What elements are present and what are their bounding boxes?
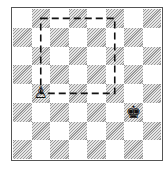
square-e2 (87, 122, 106, 141)
square-e8 (87, 9, 106, 28)
square-d1 (69, 140, 88, 159)
square-c5 (50, 65, 69, 84)
square-h6 (143, 47, 162, 66)
black-king-icon: ♚ (124, 103, 143, 122)
square-a5 (13, 65, 32, 84)
square-g4 (124, 84, 143, 103)
square-b3 (32, 103, 51, 122)
square-e3 (87, 103, 106, 122)
square-h3 (143, 103, 162, 122)
square-c6 (50, 47, 69, 66)
square-a8 (13, 9, 32, 28)
square-d4 (69, 84, 88, 103)
square-f8 (106, 9, 125, 28)
square-h4 (143, 84, 162, 103)
square-d6 (69, 47, 88, 66)
square-b6 (32, 47, 51, 66)
square-d5 (69, 65, 88, 84)
square-c2 (50, 122, 69, 141)
square-f4 (106, 84, 125, 103)
square-g6 (124, 47, 143, 66)
white-pawn-icon: ♙ (32, 84, 51, 103)
square-b5 (32, 65, 51, 84)
square-h1 (143, 140, 162, 159)
square-c8 (50, 9, 69, 28)
square-g2 (124, 122, 143, 141)
square-d2 (69, 122, 88, 141)
square-f5 (106, 65, 125, 84)
square-h5 (143, 65, 162, 84)
square-e7 (87, 28, 106, 47)
square-c3 (50, 103, 69, 122)
square-h8 (143, 9, 162, 28)
square-b2 (32, 122, 51, 141)
square-g7 (124, 28, 143, 47)
square-f3 (106, 103, 125, 122)
square-f1 (106, 140, 125, 159)
square-a7 (13, 28, 32, 47)
square-g5 (124, 65, 143, 84)
square-h7 (143, 28, 162, 47)
square-g1 (124, 140, 143, 159)
square-a1 (13, 140, 32, 159)
square-d7 (69, 28, 88, 47)
square-f6 (106, 47, 125, 66)
square-d3 (69, 103, 88, 122)
square-b8 (32, 9, 51, 28)
square-c4 (50, 84, 69, 103)
square-c7 (50, 28, 69, 47)
square-h2 (143, 122, 162, 141)
square-f7 (106, 28, 125, 47)
square-b7 (32, 28, 51, 47)
square-a4 (13, 84, 32, 103)
square-b1 (32, 140, 51, 159)
square-a2 (13, 122, 32, 141)
square-d8 (69, 9, 88, 28)
square-g8 (124, 9, 143, 28)
square-c1 (50, 140, 69, 159)
square-e5 (87, 65, 106, 84)
square-a6 (13, 47, 32, 66)
square-f2 (106, 122, 125, 141)
square-a3 (13, 103, 32, 122)
square-e6 (87, 47, 106, 66)
square-e1 (87, 140, 106, 159)
square-e4 (87, 84, 106, 103)
